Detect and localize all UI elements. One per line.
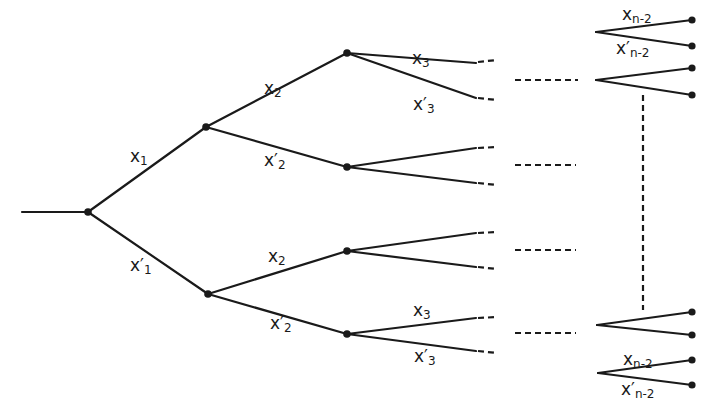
edge-label-xn2p: x′n-2 — [616, 40, 650, 59]
edge-label-x3: x3 — [413, 302, 431, 321]
tree-node-n2c — [343, 247, 351, 255]
tree-node-n2a — [343, 49, 351, 57]
edge-label-xn2: xn-2 — [623, 351, 653, 370]
edge-label-x2: x2 — [268, 248, 286, 267]
edge-label-xn2: xn-2 — [622, 6, 652, 25]
binary-tree-diagram — [0, 0, 707, 406]
edge-label-x2p: x′2 — [270, 315, 292, 334]
edge-label-xn2p: x′n-2 — [621, 381, 655, 400]
edge-label-x2: x2 — [264, 80, 282, 99]
tree-nodes — [84, 49, 351, 338]
tree-edge — [88, 127, 206, 212]
edge-label-x1p: x′1 — [130, 257, 152, 276]
tree-node-n1b — [204, 290, 212, 298]
edge-label-x3p: x′3 — [414, 348, 436, 367]
edge-label-x2p: x′2 — [264, 152, 286, 171]
edge-label-x3p: x′3 — [413, 96, 435, 115]
tree-static-parts — [347, 16, 696, 388]
edge-label-x3: x3 — [412, 50, 430, 69]
tree-edge — [88, 212, 208, 294]
tree-node-n1a — [202, 123, 210, 131]
tree-node-root — [84, 208, 92, 216]
tree-node-n2d — [343, 330, 351, 338]
edge-label-x1: x1 — [130, 148, 148, 167]
leaf-nodes — [688, 16, 695, 388]
tree-edges — [22, 53, 347, 334]
tree-node-n2b — [343, 163, 351, 171]
continuation-dashes — [515, 80, 643, 333]
final-level-fans — [596, 20, 692, 385]
